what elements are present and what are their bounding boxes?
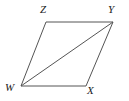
vertex-label-x: X <box>87 85 94 96</box>
vertex-label-y: Y <box>108 4 114 15</box>
vertex-label-z: Z <box>40 4 46 15</box>
vertex-label-w: W <box>5 82 14 93</box>
parallelogram-diagram <box>0 0 129 101</box>
geometry-figure: Z Y W X <box>0 0 129 101</box>
